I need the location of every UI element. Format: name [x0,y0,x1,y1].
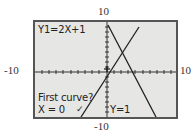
y-readout: Y=1 [110,104,130,115]
ymin-label: -10 [94,120,109,132]
x-readout: X = 0 [38,104,65,115]
equation-label: Y1=2X+1 [38,24,85,35]
calculator-graph-screen[interactable]: Y1=2X+1 First curve? X = 0 ✓ Y=1 [33,20,178,119]
xmin-label: -10 [4,64,19,76]
ymax-label: 10 [98,5,109,17]
prompt-text: First curve? [38,92,93,103]
xmax-label: 10 [180,64,191,76]
checkmark-icon: ✓ [76,104,83,114]
trace-cursor [104,66,110,72]
